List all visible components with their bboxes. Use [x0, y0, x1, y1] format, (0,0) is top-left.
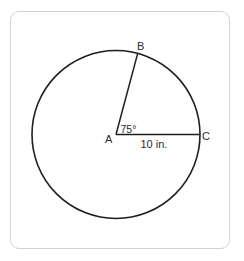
- point-label-c: C: [202, 130, 210, 142]
- point-label-a: A: [105, 133, 113, 145]
- angle-label: 75°: [121, 123, 137, 135]
- circle-diagram: B A C 75° 10 in.: [0, 0, 244, 261]
- radius-length-label: 10 in.: [141, 138, 168, 150]
- point-label-b: B: [137, 40, 144, 52]
